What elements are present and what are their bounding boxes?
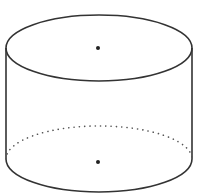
bottom-center-point xyxy=(96,160,100,164)
cylinder-diagram xyxy=(0,0,199,194)
bottom-front-arc xyxy=(6,159,192,192)
cylinder-svg xyxy=(0,0,199,194)
top-center-point xyxy=(96,46,100,50)
bottom-hidden-arc xyxy=(6,126,192,159)
